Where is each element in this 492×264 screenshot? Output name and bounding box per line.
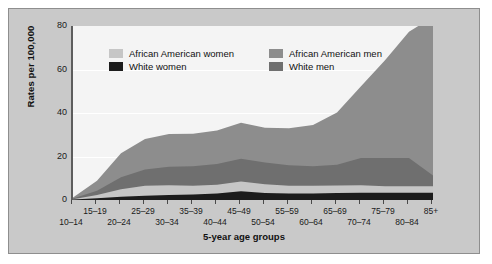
x-tick xyxy=(311,200,312,204)
x-tick xyxy=(407,200,408,204)
y-axis-ticklabels: 80 60 40 20 0 xyxy=(9,26,67,200)
x-tick-label: 40–44 xyxy=(197,217,233,227)
x-tick xyxy=(431,200,432,204)
x-tick xyxy=(215,200,216,204)
legend-label: White men xyxy=(289,61,334,72)
x-tick xyxy=(335,200,336,204)
x-tick-label: 65–69 xyxy=(317,206,353,216)
legend-label: African American men xyxy=(289,48,382,59)
legend-entry-african-american-women: African American women xyxy=(109,48,269,59)
x-tick-label: 55–59 xyxy=(269,206,305,216)
y-tick-label: 20 xyxy=(43,151,67,161)
x-tick xyxy=(383,200,384,204)
x-tick xyxy=(167,200,168,204)
legend-entry-white-women: White women xyxy=(109,61,269,72)
figure-inner: Rates per 100,000 80 60 40 20 0 10–1420–… xyxy=(9,9,479,253)
y-tick-label: 40 xyxy=(43,107,67,117)
x-tick xyxy=(119,200,120,204)
y-tick-label: 80 xyxy=(43,20,67,30)
legend-row: White women White men xyxy=(109,60,429,73)
x-tick xyxy=(359,200,360,204)
x-tick xyxy=(95,200,96,204)
x-tick-label: 15–19 xyxy=(77,206,113,216)
x-tick-label: 75–79 xyxy=(365,206,401,216)
legend-entry-african-american-men: African American men xyxy=(269,48,429,59)
legend: African American women African American … xyxy=(109,47,429,73)
x-tick-label: 25–29 xyxy=(125,206,161,216)
legend-entry-white-men: White men xyxy=(269,61,429,72)
legend-swatch-icon xyxy=(109,62,123,71)
x-tick-label: 45–49 xyxy=(221,206,257,216)
x-tick xyxy=(263,200,264,204)
x-tick-label: 10–14 xyxy=(53,217,89,227)
x-tick-label: 20–24 xyxy=(101,217,137,227)
x-tick-label: 30–34 xyxy=(149,217,185,227)
legend-swatch-icon xyxy=(269,62,283,71)
x-tick xyxy=(239,200,240,204)
x-tick xyxy=(191,200,192,204)
legend-label: African American women xyxy=(129,48,234,59)
x-tick-label: 50–54 xyxy=(245,217,281,227)
x-axis-ticks xyxy=(71,200,431,205)
x-axis-title: 5-year age groups xyxy=(9,231,479,242)
legend-label: White women xyxy=(129,61,187,72)
x-tick-label: 85+ xyxy=(413,206,449,216)
legend-swatch-icon xyxy=(269,49,283,58)
x-tick-label: 60–64 xyxy=(293,217,329,227)
legend-row: African American women African American … xyxy=(109,47,429,60)
x-tick xyxy=(71,200,72,204)
legend-swatch-icon xyxy=(109,49,123,58)
x-tick-label: 80–84 xyxy=(389,217,425,227)
x-tick xyxy=(287,200,288,204)
x-tick-label: 35–39 xyxy=(173,206,209,216)
x-tick-label: 70–74 xyxy=(341,217,377,227)
figure-panel: Rates per 100,000 80 60 40 20 0 10–1420–… xyxy=(8,8,480,254)
y-tick-label: 60 xyxy=(43,64,67,74)
y-tick-label: 0 xyxy=(43,194,67,204)
x-tick xyxy=(143,200,144,204)
